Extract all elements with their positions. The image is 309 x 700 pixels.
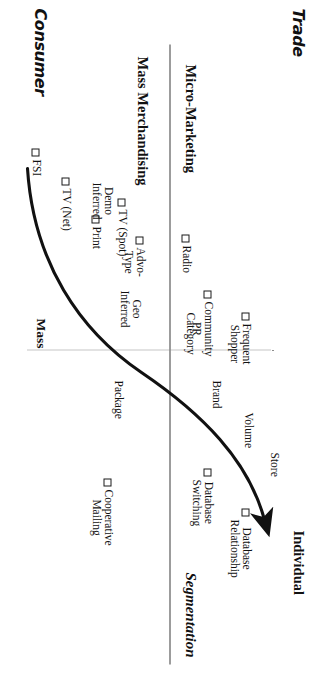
axis-caption-mass: Mass [33, 318, 47, 348]
axis-caption-trade: Trade [288, 8, 305, 56]
rotated-page-wrapper: Trade Micro-Marketing Mass Merchandising… [0, 0, 309, 700]
axis-caption-mass-merchandising: Mass Merchandising [134, 56, 149, 185]
item-database-switching[interactable]: DatabaseSwitching [189, 468, 213, 526]
square-marker-icon [31, 148, 39, 156]
curve-note-category: Category [183, 312, 195, 354]
item-database-relationship[interactable]: DatabaseRelationship [227, 508, 251, 577]
square-marker-icon [241, 508, 249, 516]
item-label: TV (Net) [59, 188, 71, 230]
curve-note-volume: Volume [241, 412, 253, 448]
item-fsi[interactable]: FSI [29, 148, 41, 176]
curve-note-geo-inferred: GeoInferred [117, 290, 141, 327]
item-tv-net[interactable]: TV (Net) [59, 177, 71, 230]
item-label: FrequentShopper [227, 323, 251, 364]
item-cooperative-mailing[interactable]: CooperativeMailing [89, 478, 113, 545]
item-label: DatabaseSwitching [189, 479, 213, 526]
square-marker-icon [203, 290, 211, 298]
plot-area: Trade Micro-Marketing Mass Merchandising… [0, 0, 309, 700]
item-label: Print [89, 226, 101, 248]
item-label: Advo-Type [121, 247, 145, 276]
item-label: Radio [179, 245, 191, 272]
square-marker-icon [181, 234, 189, 242]
horizontal-axis-line [169, 44, 170, 664]
item-label: DatabaseRelationship [227, 519, 251, 577]
item-frequent-shopper[interactable]: FrequentShopper [227, 312, 251, 364]
curve-note-demo-inferred: DemoInferred [89, 182, 113, 219]
square-marker-icon [103, 478, 111, 486]
item-label: FSI [29, 159, 41, 176]
item-advo-type[interactable]: Advo-Type [121, 236, 145, 276]
arrow-caption-segmentation: Segmentation [181, 572, 197, 657]
square-marker-icon [61, 177, 69, 185]
curve-note-brand: Brand [209, 380, 221, 408]
square-marker-icon [241, 312, 249, 320]
axis-caption-consumer: Consumer [30, 8, 47, 95]
item-radio[interactable]: Radio [179, 234, 191, 272]
item-label: CooperativeMailing [89, 489, 113, 545]
axis-caption-micro-marketing: Micro-Marketing [182, 64, 197, 172]
square-marker-icon [135, 236, 143, 244]
item-print[interactable]: Print [89, 215, 101, 248]
curve-note-store: Store [267, 452, 279, 476]
diagram-canvas: Trade Micro-Marketing Mass Merchandising… [0, 0, 309, 700]
axis-caption-individual: Individual [290, 530, 305, 595]
square-marker-icon [117, 198, 125, 206]
curve-note-package: Package [111, 380, 123, 418]
square-marker-icon [203, 468, 211, 476]
